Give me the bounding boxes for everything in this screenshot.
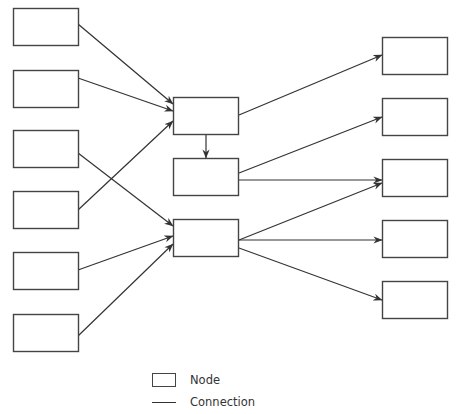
connection-arrow: [78, 24, 173, 104]
legend-label-node: Node: [190, 373, 220, 387]
connection-arrow: [78, 244, 173, 336]
connection-arrow: [78, 121, 173, 210]
legend: Node Connection: [152, 369, 292, 413]
flow-diagram: [0, 0, 461, 414]
connection-arrow: [239, 248, 382, 300]
node-box-m3: [174, 220, 239, 257]
connection-arrow: [78, 236, 173, 270]
legend-label-connection: Connection: [190, 395, 255, 409]
node-box-l3: [14, 131, 79, 168]
connection-line-icon: [152, 402, 176, 403]
node-box-l5: [14, 253, 79, 290]
node-box-m2: [174, 159, 239, 196]
legend-item-node: Node: [152, 369, 292, 391]
connection-arrow: [239, 183, 382, 240]
node-box-r3: [383, 160, 448, 197]
node-swatch-icon: [152, 373, 176, 387]
nodes: [14, 9, 448, 352]
node-box-r2: [383, 99, 448, 136]
connection-arrow: [239, 117, 382, 173]
node-box-r5: [383, 282, 448, 319]
node-box-l4: [14, 192, 79, 229]
node-box-l1: [14, 9, 79, 46]
connection-arrow: [78, 78, 173, 111]
node-box-l6: [14, 315, 79, 352]
legend-item-connection: Connection: [152, 391, 292, 413]
node-box-r1: [383, 38, 448, 75]
node-box-r4: [383, 221, 448, 258]
connection-arrow: [239, 55, 382, 115]
node-box-l2: [14, 71, 79, 108]
connection-arrow: [78, 153, 173, 226]
node-box-m1: [174, 98, 239, 135]
